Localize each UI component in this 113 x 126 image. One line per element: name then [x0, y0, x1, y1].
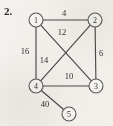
edge-weight-label: 6 [99, 48, 103, 58]
edge-weight-label: 12 [58, 27, 67, 37]
edge-weight-label: 16 [21, 46, 30, 56]
figure-container: 2. 12345 412161461040 [0, 0, 113, 126]
graph-edge [95, 27, 96, 79]
edge-weight-label: 10 [65, 71, 74, 81]
edge-weight-label: 40 [41, 99, 50, 109]
edge-weight-label: 14 [40, 55, 49, 65]
graph-node-label: 2 [93, 16, 97, 25]
graph-node-label: 5 [67, 110, 71, 119]
graph-node-label: 3 [94, 82, 98, 91]
weighted-graph-diagram: 12345 412161461040 [0, 0, 113, 126]
edge-weight-label: 4 [62, 8, 67, 18]
graph-node-label: 4 [34, 82, 38, 91]
graph-node-label: 1 [34, 16, 38, 25]
